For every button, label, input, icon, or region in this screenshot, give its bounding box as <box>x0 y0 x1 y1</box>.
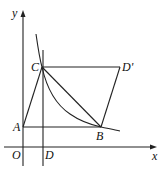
label-o: O <box>12 148 21 162</box>
label-a: A <box>12 120 21 134</box>
label-d-prime: D' <box>121 60 134 74</box>
label-d: D <box>44 148 54 162</box>
hyperbola-curve <box>36 34 120 131</box>
segment-ac <box>23 67 42 127</box>
label-x: x <box>151 149 158 163</box>
segment-cb <box>42 67 101 127</box>
segment-d-prime-b <box>101 67 120 127</box>
y-axis-arrow-icon <box>21 10 26 17</box>
coordinate-diagram: y x O D C D' A B <box>0 0 161 173</box>
label-c: C <box>31 60 40 74</box>
label-b: B <box>96 129 104 143</box>
label-y: y <box>11 6 18 20</box>
